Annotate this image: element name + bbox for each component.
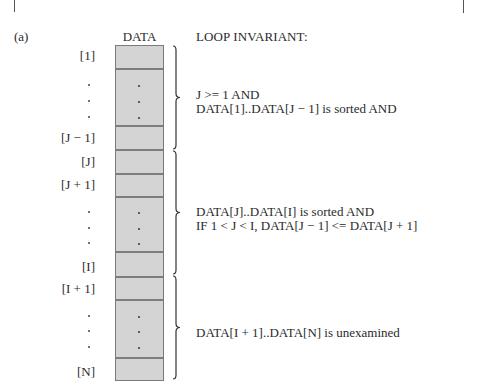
cell-ellipsis-dot [138, 243, 140, 245]
index-label: [J] [81, 155, 95, 169]
cell-divider [116, 173, 163, 175]
index-ellipsis-dot [88, 346, 90, 348]
page-edge-tick-left [14, 0, 15, 12]
page-edge-tick-right [463, 0, 464, 13]
cell-ellipsis-dot [138, 316, 140, 318]
index-label: [J + 1] [61, 178, 95, 192]
array-header: DATA [115, 29, 164, 45]
curly-brace-icon [172, 275, 186, 380]
data-array [115, 45, 164, 381]
cell-ellipsis-dot [138, 85, 140, 87]
index-ellipsis-dot [88, 211, 90, 213]
invariant-header: LOOP INVARIANT: [196, 29, 308, 45]
index-label: [I + 1] [62, 282, 95, 296]
invariant-line: DATA[I + 1]..DATA[N] is unexamined [196, 326, 400, 340]
index-ellipsis-dot [88, 116, 90, 118]
index-label: [J − 1] [61, 131, 95, 145]
index-label: [1] [80, 49, 95, 63]
invariant-line: J >= 1 AND [196, 88, 259, 102]
index-label: [N] [77, 365, 95, 379]
index-ellipsis-dot [88, 315, 90, 317]
index-ellipsis-dot [88, 242, 90, 244]
cell-ellipsis-dot [138, 331, 140, 333]
invariant-line: IF 1 < J < I, DATA[J − 1] <= DATA[J + 1] [196, 219, 417, 233]
cell-divider [116, 299, 163, 301]
cell-divider [116, 251, 163, 253]
index-ellipsis-dot [88, 84, 90, 86]
cell-ellipsis-dot [138, 101, 140, 103]
cell-ellipsis-dot [138, 117, 140, 119]
index-ellipsis-dot [88, 227, 90, 229]
cell-divider [116, 276, 163, 278]
cell-divider [116, 68, 163, 70]
index-label: [I] [82, 260, 95, 274]
cell-ellipsis-dot [138, 228, 140, 230]
cell-divider [116, 149, 163, 151]
index-ellipsis-dot [88, 330, 90, 332]
curly-brace-icon [172, 150, 186, 275]
cell-divider [116, 125, 163, 127]
cell-ellipsis-dot [138, 347, 140, 349]
index-ellipsis-dot [88, 100, 90, 102]
invariant-line: DATA[J]..DATA[I] is sorted AND [196, 205, 374, 219]
curly-brace-icon [172, 45, 186, 150]
cell-ellipsis-dot [138, 212, 140, 214]
cell-divider [116, 196, 163, 198]
invariant-line: DATA[1]..DATA[J − 1] is sorted AND [196, 102, 397, 116]
figure-label: (a) [14, 29, 28, 45]
cell-divider [116, 357, 163, 359]
